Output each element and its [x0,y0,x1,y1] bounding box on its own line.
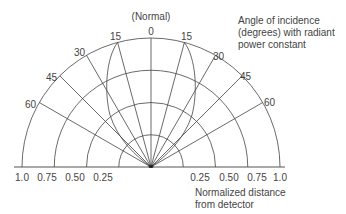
distance-label-left-0.25: 0.25 [93,172,113,183]
angle-label-right-60: 60 [264,97,276,108]
distance-label-left-1.0: 1.0 [15,172,29,183]
spoke-right-15 [151,42,184,167]
distance-annotation-line-1: Normalized distance [195,187,286,198]
angle-annotation-line-3: power constant [238,39,306,50]
lobe-right [151,42,195,167]
angle-label-left-60: 60 [25,99,37,110]
spoke-left-45 [60,76,151,167]
angle-label-left-30: 30 [74,47,86,58]
distance-label-right-0.50: 0.50 [219,172,239,183]
spoke-right-45 [151,76,242,167]
distance-annotation-line-2: from detector [195,199,255,210]
distance-label-right-1.0: 1.0 [273,172,287,183]
detector-point [149,165,154,168]
spoke-left-30 [87,55,152,167]
distance-label-left-0.50: 0.50 [65,172,85,183]
spoke-right-60 [151,103,263,168]
angle-label-0: 0 [148,26,154,37]
angle-label-right-15: 15 [181,31,193,42]
angle-spokes [39,38,262,167]
distance-annotation: Normalized distance from detector [195,187,286,210]
angle-label-right-45: 45 [240,71,252,82]
angle-label-right-30: 30 [213,51,225,62]
normal-label: (Normal) [132,11,171,22]
distance-label-right-0.25: 0.25 [190,172,210,183]
spoke-right-30 [151,55,216,167]
angle-annotation: Angle of incidence (degrees) with radian… [238,15,335,50]
polar-incidence-diagram: (Normal) 0 15 15 30 30 45 45 60 60 1.0 0… [0,0,346,214]
distance-label-right-0.75: 0.75 [247,172,267,183]
angle-annotation-line-2: (degrees) with radiant [238,27,335,38]
distance-label-left-0.75: 0.75 [37,172,57,183]
spoke-left-60 [39,103,151,168]
lobe-left [107,42,151,167]
angle-annotation-line-1: Angle of incidence [238,15,320,26]
angle-label-left-45: 45 [46,72,58,83]
spoke-left-15 [118,42,151,167]
angle-label-left-15: 15 [110,31,122,42]
